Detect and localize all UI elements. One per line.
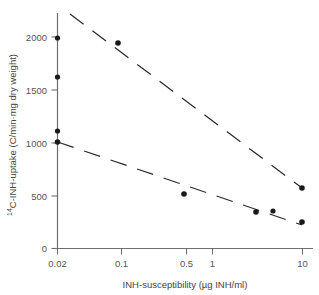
data-point xyxy=(55,128,60,133)
chart-figure: 0 500 1000 1500 2000 0.02 0.1 0.5 1 10 I… xyxy=(0,0,319,295)
x-tick-label-01: 0.1 xyxy=(115,258,128,269)
y-tick-label-0: 0 xyxy=(42,243,47,254)
series-upper-group-markers xyxy=(55,35,305,190)
data-point xyxy=(270,208,275,213)
data-point xyxy=(115,40,121,46)
series-lower-group-markers xyxy=(55,128,305,224)
data-point xyxy=(55,74,60,79)
y-tick-label-1500: 1500 xyxy=(26,85,47,96)
x-tick-label-10: 10 xyxy=(297,258,308,269)
data-point xyxy=(55,35,60,40)
trendline-lower-regression xyxy=(58,142,303,225)
y-tick-label-1000: 1000 xyxy=(26,138,47,149)
x-tick-label-002: 0.02 xyxy=(48,258,67,269)
data-point xyxy=(299,185,305,191)
data-point xyxy=(299,219,305,225)
data-point xyxy=(55,139,61,145)
chart-plot-area: 0 500 1000 1500 2000 0.02 0.1 0.5 1 10 I… xyxy=(0,0,319,295)
y-axis-title: 14C-INH-uptake (C/min·mg dry weight) xyxy=(6,54,18,216)
data-point xyxy=(253,209,259,215)
x-axis-title: INH-susceptibility (µg INH/ml) xyxy=(123,279,248,290)
trendline-upper-regression xyxy=(70,14,302,188)
x-tick-label-1: 1 xyxy=(210,258,215,269)
y-tick-label-2000: 2000 xyxy=(26,32,47,43)
y-tick-label-500: 500 xyxy=(31,191,47,202)
x-axis-ticks xyxy=(58,249,303,255)
svg-text:14C-INH-uptake (C/min·mg dry w: 14C-INH-uptake (C/min·mg dry weight) xyxy=(6,54,18,216)
y-axis-title-superscript: 14 xyxy=(6,208,13,216)
x-tick-label-05: 0.5 xyxy=(180,258,193,269)
data-point xyxy=(181,191,187,197)
y-axis-title-text: C-INH-uptake (C/min·mg dry weight) xyxy=(7,54,18,208)
